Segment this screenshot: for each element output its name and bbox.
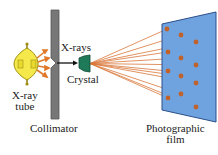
crystal-label: Crystal [67, 74, 99, 85]
photographic-film-icon [162, 12, 216, 122]
beam-arrow-icon [57, 61, 78, 66]
collimator-label: Collimator [30, 123, 78, 134]
film-label: Photographic film [146, 123, 205, 145]
emitted-rays-icon [37, 50, 49, 77]
film-label-line2: film [146, 134, 205, 145]
collimator-icon [51, 10, 59, 119]
xray-tube-icon [14, 42, 38, 85]
crystal-icon [79, 55, 90, 72]
xrays-label: X-rays [61, 42, 91, 53]
xray-tube-label-line2: tube [12, 101, 38, 112]
xray-tube-label: X-ray tube [12, 90, 38, 112]
